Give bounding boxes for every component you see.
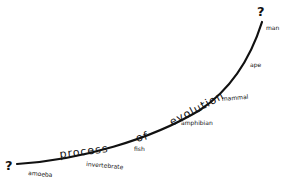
evolution-diagram: ? ? process of evolution amoeba inverteb… [0,0,295,187]
start-question-mark: ? [5,158,13,173]
stage-amphibian: amphibian [181,119,213,127]
stage-mammal: mammal [221,93,248,102]
stage-fish: fish [134,145,145,152]
stage-invertebrate: invertebrate [86,160,124,170]
stage-amoeba: amoeba [28,169,53,178]
stage-man: man [266,24,280,31]
stage-ape: ape [250,61,261,69]
title-word-of: of [134,129,150,145]
diagram-canvas: ? ? process of evolution amoeba inverteb… [0,0,295,187]
title-word-process: process [59,142,109,161]
end-question-mark: ? [257,4,265,19]
